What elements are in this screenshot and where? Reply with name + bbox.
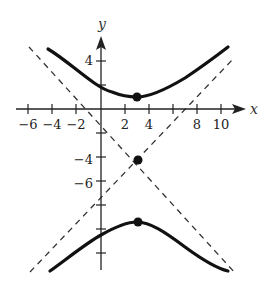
vertex-lower-point xyxy=(134,218,143,227)
graph-canvas: −6 −4 −2 2 4 8 10 4 −4 −6 x y xyxy=(0,0,275,287)
asymptote-negative-slope xyxy=(29,47,236,274)
y-tick-label: 4 xyxy=(85,53,93,68)
x-tick-label: 4 xyxy=(145,117,153,132)
x-tick-label: 2 xyxy=(121,117,129,132)
y-axis-label: y xyxy=(97,16,107,32)
x-tick-label: 8 xyxy=(193,117,201,132)
x-tick-label: 10 xyxy=(213,117,230,132)
x-tick-label: −6 xyxy=(18,117,37,132)
hyperbola-lower-branch xyxy=(50,222,228,271)
hyperbola-diagram: −6 −4 −2 2 4 8 10 4 −4 −6 x y xyxy=(0,0,275,287)
vertex-upper-point xyxy=(133,93,142,102)
y-tick-label: −4 xyxy=(74,152,93,167)
x-tick-label: −2 xyxy=(66,117,85,132)
asymptote-positive-slope xyxy=(30,58,234,272)
y-tick-label: −6 xyxy=(74,176,93,191)
x-tick-label: −4 xyxy=(42,117,61,132)
center-point xyxy=(134,156,143,165)
x-axis-label: x xyxy=(250,101,258,117)
hyperbola-upper-branch xyxy=(48,47,228,97)
